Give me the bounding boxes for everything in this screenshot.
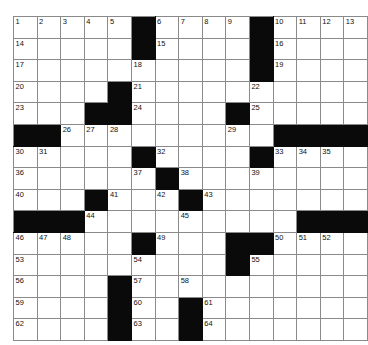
crossword-cell[interactable] [179,81,203,103]
crossword-cell[interactable] [131,211,155,233]
crossword-cell[interactable] [61,146,85,168]
crossword-cell[interactable] [61,60,85,82]
crossword-cell[interactable]: 29 [226,124,250,146]
crossword-cell[interactable]: 30 [14,146,38,168]
crossword-cell[interactable] [226,297,250,319]
crossword-cell[interactable] [155,276,179,298]
crossword-cell[interactable]: 16 [273,38,297,60]
crossword-cell[interactable]: 18 [131,60,155,82]
crossword-cell[interactable] [344,146,368,168]
crossword-cell[interactable] [202,124,226,146]
crossword-cell[interactable] [344,168,368,190]
crossword-cell[interactable] [155,60,179,82]
crossword-cell[interactable]: 64 [202,319,226,341]
crossword-cell[interactable] [179,103,203,125]
crossword-cell[interactable] [84,254,108,276]
crossword-cell[interactable] [61,168,85,190]
crossword-cell[interactable] [297,189,321,211]
crossword-cell[interactable] [131,124,155,146]
crossword-cell[interactable] [344,38,368,60]
crossword-cell[interactable]: 8 [202,17,226,39]
crossword-cell[interactable] [37,168,61,190]
crossword-cell[interactable] [202,168,226,190]
crossword-cell[interactable] [37,319,61,341]
crossword-cell[interactable] [226,60,250,82]
crossword-cell[interactable] [84,276,108,298]
crossword-cell[interactable] [155,254,179,276]
crossword-cell[interactable]: 36 [14,168,38,190]
crossword-cell[interactable]: 31 [37,146,61,168]
crossword-cell[interactable]: 56 [14,276,38,298]
crossword-cell[interactable]: 21 [131,81,155,103]
crossword-cell[interactable] [320,168,344,190]
crossword-cell[interactable]: 41 [108,189,132,211]
crossword-cell[interactable] [320,103,344,125]
crossword-cell[interactable] [344,232,368,254]
crossword-cell[interactable]: 10 [273,17,297,39]
crossword-cell[interactable] [155,124,179,146]
crossword-cell[interactable]: 17 [14,60,38,82]
crossword-cell[interactable] [249,319,273,341]
crossword-cell[interactable] [297,297,321,319]
crossword-cell[interactable]: 50 [273,232,297,254]
crossword-cell[interactable] [202,276,226,298]
crossword-cell[interactable]: 9 [226,17,250,39]
crossword-cell[interactable] [297,276,321,298]
crossword-cell[interactable] [155,81,179,103]
crossword-cell[interactable] [226,276,250,298]
crossword-cell[interactable] [226,168,250,190]
crossword-cell[interactable] [344,319,368,341]
crossword-cell[interactable] [108,38,132,60]
crossword-cell[interactable] [84,81,108,103]
crossword-cell[interactable]: 57 [131,276,155,298]
crossword-cell[interactable] [108,168,132,190]
crossword-cell[interactable]: 46 [14,232,38,254]
crossword-cell[interactable] [84,146,108,168]
crossword-cell[interactable] [249,211,273,233]
crossword-cell[interactable] [297,168,321,190]
crossword-cell[interactable] [202,254,226,276]
crossword-cell[interactable]: 62 [14,319,38,341]
crossword-cell[interactable] [179,124,203,146]
crossword-cell[interactable]: 38 [179,168,203,190]
crossword-cell[interactable]: 35 [320,146,344,168]
crossword-cell[interactable] [249,124,273,146]
crossword-cell[interactable] [179,60,203,82]
crossword-cell[interactable]: 13 [344,17,368,39]
crossword-cell[interactable] [344,189,368,211]
crossword-cell[interactable]: 45 [179,211,203,233]
crossword-cell[interactable]: 2 [37,17,61,39]
crossword-cell[interactable]: 22 [249,81,273,103]
crossword-cell[interactable]: 3 [61,17,85,39]
crossword-cell[interactable]: 4 [84,17,108,39]
crossword-cell[interactable]: 47 [37,232,61,254]
crossword-cell[interactable] [297,254,321,276]
crossword-cell[interactable] [320,81,344,103]
crossword-grid[interactable]: 1234567891011121314151617181920212223242… [13,16,368,341]
crossword-cell[interactable] [297,319,321,341]
crossword-cell[interactable]: 63 [131,319,155,341]
crossword-cell[interactable] [249,297,273,319]
crossword-cell[interactable] [273,276,297,298]
crossword-cell[interactable] [155,103,179,125]
crossword-cell[interactable] [61,276,85,298]
crossword-cell[interactable] [273,319,297,341]
crossword-cell[interactable]: 6 [155,17,179,39]
crossword-cell[interactable] [37,60,61,82]
crossword-cell[interactable] [273,168,297,190]
crossword-cell[interactable] [108,232,132,254]
crossword-cell[interactable] [61,297,85,319]
crossword-cell[interactable]: 51 [297,232,321,254]
crossword-cell[interactable]: 60 [131,297,155,319]
crossword-cell[interactable] [226,189,250,211]
crossword-cell[interactable] [61,103,85,125]
crossword-cell[interactable] [320,189,344,211]
crossword-cell[interactable]: 5 [108,17,132,39]
crossword-cell[interactable]: 58 [179,276,203,298]
crossword-cell[interactable] [61,38,85,60]
crossword-cell[interactable]: 28 [108,124,132,146]
crossword-cell[interactable] [37,81,61,103]
crossword-cell[interactable]: 48 [61,232,85,254]
crossword-cell[interactable]: 26 [61,124,85,146]
crossword-cell[interactable] [202,211,226,233]
